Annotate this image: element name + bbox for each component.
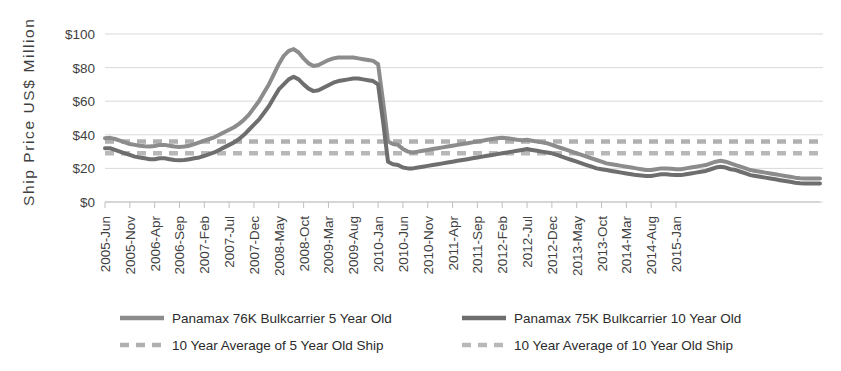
x-axis-tick-label: 2012-Feb xyxy=(495,216,510,274)
y-axis-tick-labels: $0$20$40$60$80$100 xyxy=(65,27,95,210)
x-axis-tick-label: 2011-Sep xyxy=(470,216,485,274)
x-axis-tick-label: 2006-Apr xyxy=(148,216,163,272)
x-axis-tick-label: 2012-Dec xyxy=(545,216,560,275)
x-axis-tick-label: 2005-Nov xyxy=(123,216,138,275)
x-axis-tick-label: 2007-Feb xyxy=(197,216,212,274)
y-axis-title: Ship Price US$ Million xyxy=(20,17,37,206)
legend-label: Panamax 75K Bulkcarrier 10 Year Old xyxy=(514,311,741,326)
data-series-lines xyxy=(105,49,820,183)
legend-label: 10 Year Average of 5 Year Old Ship xyxy=(172,338,383,353)
x-axis-tick-label: 2013-May xyxy=(570,216,585,276)
legend-label: 10 Year Average of 10 Year Old Ship xyxy=(514,338,733,353)
x-axis-tick-label: 2011-Apr xyxy=(446,216,461,271)
y-axis-tick-label: $40 xyxy=(72,128,95,143)
y-axis-title-group: Ship Price US$ Million xyxy=(20,17,37,206)
x-axis-tick-marks xyxy=(105,202,676,208)
data-series-line xyxy=(105,77,820,184)
x-axis-tick-label: 2012-Jul xyxy=(520,216,535,268)
x-axis-tick-label: 2013-Oct xyxy=(595,216,610,272)
x-axis-tick-label: 2006-Sep xyxy=(172,216,187,275)
chart-container: Ship Price US$ Million $0$20$40$60$80$10… xyxy=(0,0,841,371)
y-axis-tick-label: $60 xyxy=(72,94,95,109)
x-axis-tick-label: 2015-Jan xyxy=(669,216,684,272)
y-axis-tick-label: $80 xyxy=(72,61,95,76)
ship-price-line-chart: Ship Price US$ Million $0$20$40$60$80$10… xyxy=(0,0,841,371)
y-axis-tick-label: $20 xyxy=(72,161,95,176)
x-axis-tick-label: 2009-Mar xyxy=(321,215,336,273)
y-axis-tick-label: $0 xyxy=(80,195,95,210)
x-axis-tick-labels: 2005-Jun2005-Nov2006-Apr2006-Sep2007-Feb… xyxy=(98,215,684,276)
gridlines xyxy=(105,34,823,202)
legend-label: Panamax 76K Bulkcarrier 5 Year Old xyxy=(172,311,392,326)
x-axis-tick-label: 2010-Nov xyxy=(421,216,436,275)
x-axis-tick-label: 2007-Dec xyxy=(247,216,262,275)
x-axis-tick-label: 2009-Aug xyxy=(346,216,361,275)
chart-legend: Panamax 76K Bulkcarrier 5 Year OldPanama… xyxy=(120,311,741,353)
x-axis-tick-label: 2005-Jun xyxy=(98,216,113,272)
x-axis-tick-label: 2010-Jan xyxy=(371,216,386,272)
y-axis-tick-label: $100 xyxy=(65,27,95,42)
x-axis-tick-label: 2010-Jun xyxy=(396,216,411,272)
x-axis-tick-label: 2008-May xyxy=(272,216,287,276)
x-axis-tick-label: 2014-Aug xyxy=(644,216,659,275)
x-axis-tick-label: 2007-Jul xyxy=(222,216,237,268)
x-axis-tick-label: 2008-Oct xyxy=(297,216,312,272)
x-axis-tick-label: 2014-Mar xyxy=(619,215,634,273)
